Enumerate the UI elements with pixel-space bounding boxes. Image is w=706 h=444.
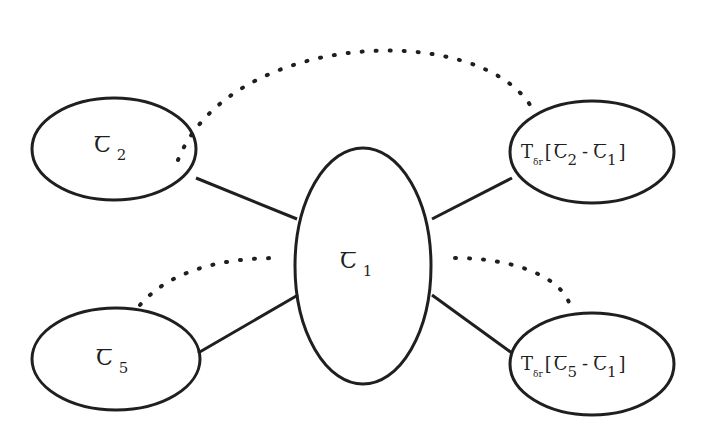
edge-c5-c1 (198, 295, 298, 353)
node-c1-label: Ꞇ1 (340, 248, 372, 280)
node-c5-ellipse (32, 308, 200, 410)
dotted-arc-c1-to-t51 (455, 258, 570, 305)
edge-t51-c1 (432, 295, 512, 353)
node-t51-ellipse (510, 313, 674, 415)
node-t51-label: Tδr[Ꞇ5-Ꞇ1] (521, 353, 626, 381)
node-t21-ellipse (510, 101, 674, 203)
edge-c2-c1 (196, 178, 297, 219)
node-c5-label: Ꞇ5 (96, 345, 128, 377)
diagram-canvas: Ꞇ1 Ꞇ2 Ꞇ5 Tδr[Ꞇ2-Ꞇ1] Tδr[Ꞇ5-Ꞇ1] (0, 0, 706, 444)
dotted-arc-c5-to-c1 (140, 258, 278, 305)
node-t21-label: Tδr[Ꞇ2-Ꞇ1] (521, 141, 626, 169)
node-c2-ellipse (32, 98, 196, 200)
node-c2-label: Ꞇ2 (94, 132, 126, 164)
edge-t21-c1 (432, 178, 512, 219)
dotted-arc-c2-to-t21 (178, 51, 532, 160)
